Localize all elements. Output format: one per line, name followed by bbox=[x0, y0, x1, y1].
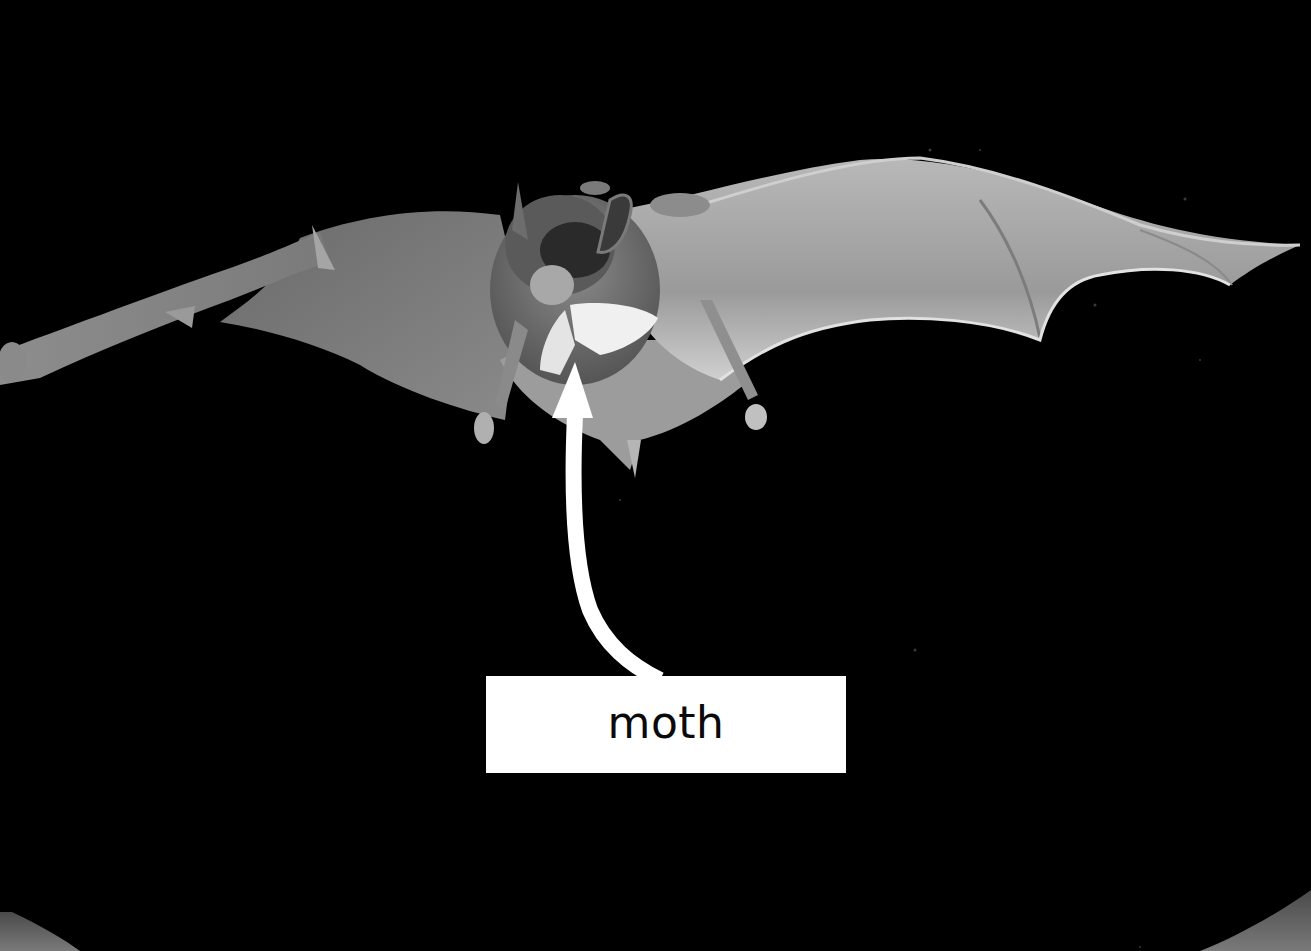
frame-corner-right bbox=[1200, 890, 1311, 951]
right-wing bbox=[620, 158, 1300, 380]
bat-illustration bbox=[0, 0, 1311, 951]
left-wing bbox=[0, 211, 520, 420]
moth-label-box: moth bbox=[486, 676, 846, 773]
bat-photo: moth bbox=[0, 0, 1311, 951]
moth-label: moth bbox=[608, 701, 725, 745]
frame-corner-left bbox=[0, 912, 80, 951]
